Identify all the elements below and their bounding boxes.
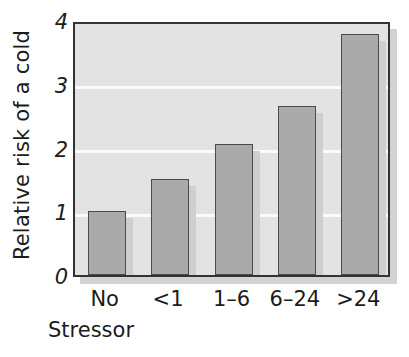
plot-area xyxy=(73,22,390,277)
y-axis-tick-label: 2 xyxy=(44,139,68,160)
bar xyxy=(341,34,379,275)
bar xyxy=(151,179,189,275)
bar xyxy=(88,211,126,275)
x-axis-tick-label: <1 xyxy=(153,288,184,311)
x-axis-label: Stressor xyxy=(48,318,134,342)
bar xyxy=(215,144,253,275)
y-axis-tick-label: 3 xyxy=(44,75,68,96)
y-axis-tick-label: 4 xyxy=(44,12,68,33)
y-axis-tick-labels: 01234 xyxy=(44,0,72,300)
x-axis-tick-labels: No<11–66–24>24 xyxy=(73,288,390,322)
y-axis-tick-label: 0 xyxy=(44,267,68,288)
x-axis-tick-label: 6–24 xyxy=(270,288,321,311)
x-axis-tick-label: No xyxy=(90,288,119,311)
y-axis-label-text: Relative risk of a cold xyxy=(10,30,34,260)
bar xyxy=(278,106,316,275)
y-axis-tick-label: 1 xyxy=(44,203,68,224)
bar-chart-figure: Relative risk of a cold 01234 No<11–66–2… xyxy=(0,0,409,357)
x-axis-tick-label: >24 xyxy=(336,288,380,311)
x-axis-tick-label: 1–6 xyxy=(213,288,250,311)
y-axis-label: Relative risk of a cold xyxy=(0,0,44,290)
